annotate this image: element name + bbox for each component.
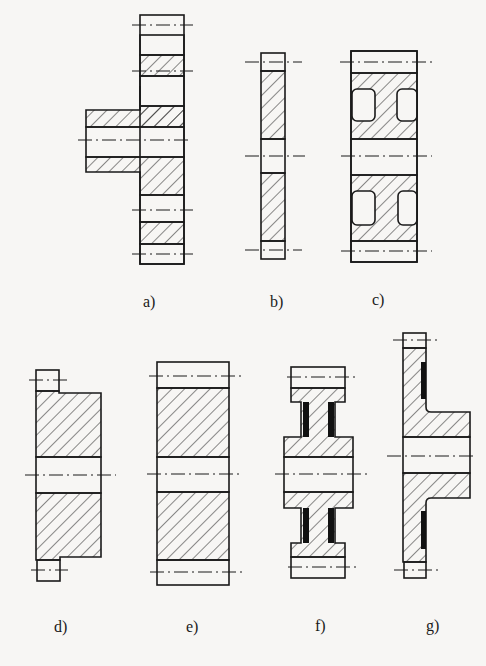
panel-label-e: e) [186, 619, 198, 635]
section-a [78, 15, 193, 264]
panel-label-g: g) [426, 618, 439, 634]
panel-label-b: b) [270, 294, 283, 310]
section-d [25, 370, 116, 581]
section-b [245, 53, 305, 259]
section-f [275, 367, 367, 578]
panel-label-f: f) [315, 618, 326, 634]
panel-label-c: c) [372, 292, 384, 308]
section-g [387, 333, 477, 578]
panel-label-d: d) [54, 619, 67, 635]
section-c [340, 51, 432, 262]
section-e [147, 362, 243, 585]
panel-label-a: a) [143, 294, 155, 310]
sprocket-sections-figure [0, 0, 486, 666]
